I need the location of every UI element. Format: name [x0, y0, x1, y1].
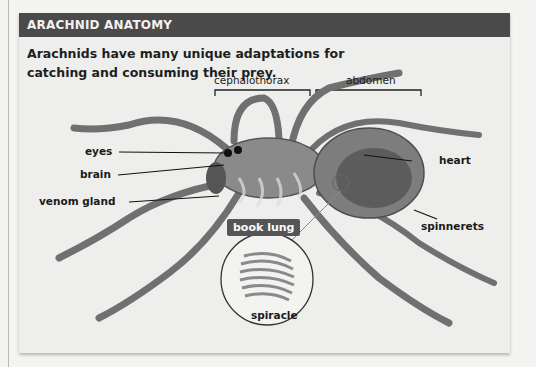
- page-margin-rule: [8, 0, 9, 367]
- label-book-lung: book lung: [227, 219, 300, 236]
- label-venom-gland: venom gland: [39, 195, 115, 207]
- label-abdomen: abdomen: [346, 74, 396, 86]
- label-heart: heart: [439, 154, 471, 166]
- figure-panel: ARACHNID ANATOMY Arachnids have many uni…: [19, 13, 510, 353]
- spider-illustration: [19, 13, 510, 353]
- label-brain: brain: [80, 168, 111, 180]
- cephalothorax-body: [214, 138, 324, 198]
- label-eyes: eyes: [85, 145, 112, 157]
- label-spinnerets: spinnerets: [421, 220, 484, 232]
- label-spiracle: spiracle: [251, 309, 298, 321]
- label-cephalothorax: cephalothorax: [214, 74, 290, 86]
